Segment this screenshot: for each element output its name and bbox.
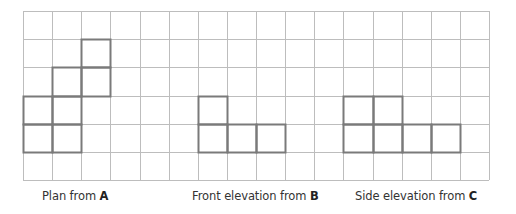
shape-cell — [199, 97, 228, 125]
plan-from-a-shape — [24, 40, 111, 153]
shape-cell — [199, 125, 228, 153]
shape-cell — [53, 125, 82, 153]
shape-cell — [257, 125, 286, 153]
isometric-views-diagram — [0, 0, 516, 214]
plan-label: Plan from A — [42, 189, 108, 203]
shape-cell — [374, 97, 403, 125]
plan-label-text: Plan from — [42, 189, 100, 203]
shape-cell — [344, 97, 374, 125]
side-elevation-from-c-shape — [344, 97, 461, 153]
shape-cell — [24, 97, 53, 125]
shape-cell — [82, 40, 111, 68]
shape-cell — [432, 125, 461, 153]
front-elevation-label: Front elevation from B — [192, 189, 319, 203]
side-elevation-label-text: Side elevation from — [355, 189, 469, 203]
shape-cell — [374, 125, 403, 153]
shape-cell — [403, 125, 432, 153]
front-elevation-label-letter: B — [310, 189, 319, 203]
side-elevation-label: Side elevation from C — [355, 189, 477, 203]
plan-label-letter: A — [100, 189, 109, 203]
shape-cell — [24, 125, 53, 153]
shape-cell — [82, 68, 111, 97]
shape-cell — [228, 125, 257, 153]
shape-cell — [53, 97, 82, 125]
shape-cell — [53, 68, 82, 97]
front-elevation-from-b-shape — [199, 97, 286, 153]
shape-cell — [344, 125, 374, 153]
side-elevation-label-letter: C — [469, 189, 477, 203]
front-elevation-label-text: Front elevation from — [192, 189, 310, 203]
